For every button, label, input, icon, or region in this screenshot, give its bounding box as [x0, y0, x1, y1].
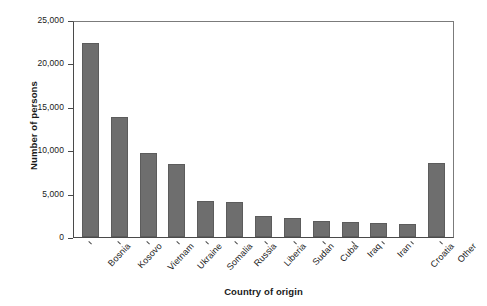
y-axis-tick-label: 25,000: [37, 15, 64, 25]
bar-somalia: [197, 201, 214, 237]
y-axis-tick-label: 5,000: [42, 189, 64, 199]
bar-cuba: [313, 221, 330, 237]
x-axis-title: Country of origin: [73, 286, 454, 297]
x-axis-tick-label: Vietnam: [166, 241, 196, 272]
bar-chart-figure: Number of persons 05,00010,00015,00020,0…: [0, 0, 487, 306]
x-axis-tick-mark: [205, 241, 209, 244]
plot-area: [73, 21, 454, 238]
bar-russia: [226, 202, 243, 237]
x-axis-tick-labels: BosniaKosovoVietnamUkraineSomaliaRussiaL…: [73, 239, 454, 285]
bar-slot: [422, 22, 451, 237]
bar-slot: [278, 22, 307, 237]
bar-slot: [336, 22, 365, 237]
x-axis-tick-label: Russia: [252, 241, 278, 268]
x-axis-tick-label: Kosovo: [136, 241, 164, 270]
bar-slot: [134, 22, 163, 237]
bar-iran: [370, 223, 387, 237]
bar-slot: [364, 22, 393, 237]
x-axis-tick-mark: [410, 241, 414, 244]
x-axis-tick-mark: [381, 241, 385, 244]
y-axis-tick-label: 15,000: [37, 102, 64, 112]
bar-croatia: [399, 224, 416, 237]
x-axis-tick-label: Other: [456, 241, 479, 265]
x-axis-tick-mark: [264, 241, 268, 244]
y-axis-tick-label: 0: [59, 232, 64, 242]
x-axis-tick-mark: [147, 241, 151, 244]
bar-sudan: [284, 218, 301, 237]
x-axis-tick-label: Sudan: [310, 241, 335, 267]
x-axis-tick-mark: [293, 241, 297, 244]
x-axis-tick-mark: [235, 241, 239, 244]
bar-slot: [105, 22, 134, 237]
bar-slot: [393, 22, 422, 237]
x-axis-tick-label: Iran: [395, 241, 413, 259]
bar-slot: [76, 22, 105, 237]
x-axis-tick-mark: [440, 241, 444, 244]
x-axis-tick-label: Liberia: [281, 241, 307, 268]
bar-other: [428, 163, 445, 237]
x-axis-tick-label: Croatia: [428, 241, 456, 270]
x-axis-tick-label: Somalia: [224, 241, 254, 272]
bar-slot: [307, 22, 336, 237]
x-axis-tick-mark: [88, 241, 92, 244]
bar-slot: [163, 22, 192, 237]
x-axis-tick-mark: [117, 241, 121, 244]
bar-bosnia: [82, 43, 99, 237]
x-axis-tick-label: Bosnia: [106, 241, 132, 268]
x-axis-tick-label: Iraq: [365, 241, 383, 259]
x-axis-tick-label: Ukraine: [195, 241, 224, 271]
bar-kosovo: [111, 117, 128, 237]
x-axis-tick-label: Cuba: [338, 241, 360, 264]
bar-slot: [220, 22, 249, 237]
bar-series: [74, 22, 453, 237]
bar-slot: [249, 22, 278, 237]
y-axis-tick-label: 10,000: [37, 145, 64, 155]
bar-ukraine: [168, 164, 185, 237]
x-axis-tick-mark: [322, 241, 326, 244]
y-axis-tick-label: 20,000: [37, 58, 64, 68]
bar-liberia: [255, 216, 272, 237]
bar-vietnam: [140, 153, 157, 237]
x-axis-tick-mark: [176, 241, 180, 244]
bar-slot: [191, 22, 220, 237]
bar-iraq: [342, 222, 359, 237]
